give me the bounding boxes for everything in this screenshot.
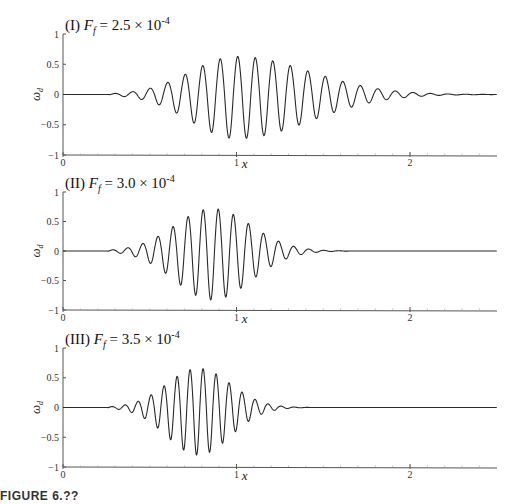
y-tick-label: −0.5 xyxy=(41,119,59,130)
x-tick-label: 0 xyxy=(61,312,66,323)
x-tick-label: 0 xyxy=(61,157,66,168)
y-tick-label: −0.5 xyxy=(41,275,59,286)
y-tick-label: −1 xyxy=(48,305,59,316)
y-tick-label: −1 xyxy=(48,462,59,473)
x-axis-label: x xyxy=(241,468,248,483)
wave-series xyxy=(63,369,497,455)
wave-series xyxy=(63,209,497,300)
x-axis-label: x xyxy=(241,311,248,326)
y-tick-label: 1 xyxy=(54,343,59,354)
y-axis-label: ωd xyxy=(28,400,45,414)
y-tick-label: −1 xyxy=(48,150,59,161)
x-tick-label: 2 xyxy=(408,312,413,323)
y-tick-label: −0.5 xyxy=(41,432,59,443)
x-tick-label: 0 xyxy=(61,469,66,480)
panel-III: 10.50−0.5−1012xωd(III) Ff = 3.5 × 10-4 xyxy=(28,329,497,483)
figure-caption: FIGURE 6.?? xyxy=(0,489,79,503)
x-axis xyxy=(63,155,497,156)
x-tick-label: 2 xyxy=(408,469,413,480)
wave-series xyxy=(63,56,497,138)
x-tick-label: 1 xyxy=(234,157,239,168)
panel-title: (I) Ff = 2.5 × 10-4 xyxy=(65,15,170,36)
y-axis-label: ωd xyxy=(28,87,45,101)
y-tick-label: 0 xyxy=(54,89,59,100)
x-tick-label: 2 xyxy=(408,157,413,168)
y-tick-label: 0 xyxy=(54,246,59,257)
y-tick-label: 0 xyxy=(54,402,59,413)
panel-title: (II) Ff = 3.0 × 10-4 xyxy=(65,173,175,194)
y-tick-label: 1 xyxy=(54,29,59,40)
x-axis xyxy=(63,310,497,311)
x-axis xyxy=(63,467,497,468)
panel-II: 10.50−0.5−1012xωd(II) Ff = 3.0 × 10-4 xyxy=(28,173,497,326)
y-axis-label: ωd xyxy=(28,243,45,257)
panel-I: 10.50−0.5−1012xωd(I) Ff = 2.5 × 10-4 xyxy=(28,15,497,171)
y-tick-label: 0.5 xyxy=(47,216,60,227)
x-tick-label: 1 xyxy=(234,312,239,323)
figure-canvas: 10.50−0.5−1012xωd(I) Ff = 2.5 × 10-410.5… xyxy=(0,0,520,504)
x-tick-label: 1 xyxy=(234,469,239,480)
y-tick-label: 0.5 xyxy=(47,372,60,383)
x-axis-label: x xyxy=(241,156,248,171)
y-tick-label: 1 xyxy=(54,187,59,198)
panel-title: (III) Ff = 3.5 × 10-4 xyxy=(65,329,180,350)
y-tick-label: 0.5 xyxy=(47,59,60,70)
